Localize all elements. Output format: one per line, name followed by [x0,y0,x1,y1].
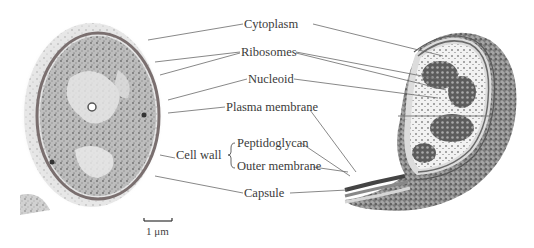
scale-bar [144,218,172,221]
label-plasma-membrane: Plasma membrane [226,100,318,114]
vesicle [88,103,96,111]
cell-wall-bracket [228,143,235,168]
debris [20,194,50,215]
label-outer-membrane: Outer membrane [237,159,321,173]
label-cytoplasm: Cytoplasm [244,17,298,31]
label-cell-wall: Cell wall [176,148,221,162]
cutaway-illustration [345,33,516,211]
label-capsule: Capsule [244,186,284,200]
scale-bar-label: 1 μm [146,225,169,237]
label-nucleoid: Nucleoid [248,72,294,86]
nucleoid-cluster [412,143,436,163]
label-ribosomes: Ribosomes [241,45,297,59]
micrograph [20,20,164,215]
figure-drawing [0,0,534,248]
nucleoid-cluster [430,114,474,142]
nucleoid-cluster [448,76,476,108]
dense-granule [50,160,55,165]
label-peptidoglycan: Peptidoglycan [237,136,309,150]
dense-granule [142,113,147,118]
